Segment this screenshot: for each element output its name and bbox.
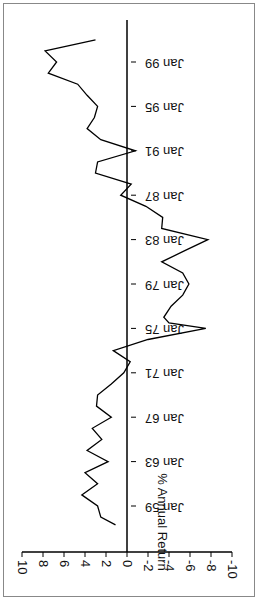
value-tick-label: -6	[183, 560, 198, 572]
time-tick-label: Jan 71	[145, 366, 184, 381]
value-tick-label: -8	[204, 560, 219, 572]
time-tick-label: Jan 99	[145, 56, 184, 71]
value-tick-label: 6	[57, 560, 72, 567]
time-tick-label: Jan 59	[145, 500, 184, 515]
value-tick-label: 10	[15, 560, 30, 574]
value-tick-label: 4	[78, 560, 93, 567]
time-tick-label: Jan 91	[145, 144, 184, 159]
time-tick-label: Jan 63	[145, 455, 184, 470]
time-tick-label: Jan 79	[145, 278, 184, 293]
value-tick-label: 0	[120, 560, 135, 567]
line-chart: 1086420-2-4-6-8-10% Annual ReturnJan 59J…	[0, 0, 268, 602]
time-tick-label: Jan 95	[145, 100, 184, 115]
value-tick-label: -2	[141, 560, 156, 572]
time-tick-label: Jan 83	[145, 233, 184, 248]
value-tick-label: 2	[99, 560, 114, 567]
value-tick-label: 8	[36, 560, 51, 567]
value-tick-label: -10	[225, 560, 240, 579]
time-tick-label: Jan 87	[145, 189, 184, 204]
value-axis-title: % Annual Return	[155, 473, 170, 571]
time-tick-label: Jan 67	[145, 411, 184, 426]
